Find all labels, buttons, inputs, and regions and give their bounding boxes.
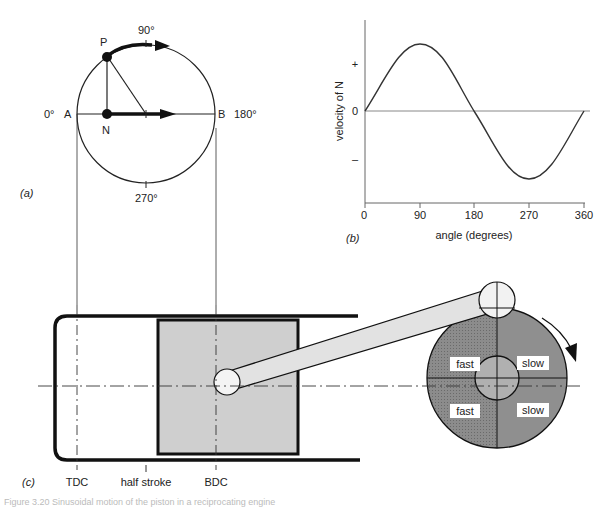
rotation-arrow-head-icon <box>565 343 577 362</box>
point-n <box>102 109 112 119</box>
label-b: B <box>218 108 225 120</box>
radius-line <box>107 56 146 114</box>
figure-caption: Figure 3.20 Sinusoidal motion of the pis… <box>4 497 275 507</box>
x-tick-0: 0 <box>361 209 367 221</box>
x-axis-title: angle (degrees) <box>435 229 512 241</box>
quadrant-label-top-left: fast <box>456 358 474 370</box>
label-n: N <box>102 124 110 136</box>
quadrant-label-bottom-left: fast <box>456 405 474 417</box>
label-0-deg: 0° <box>44 108 55 120</box>
label-a: A <box>64 108 72 120</box>
quadrant-label-top-right: slow <box>522 357 544 369</box>
x-tick-180: 180 <box>465 209 483 221</box>
rotation-arc <box>107 44 152 56</box>
marker-half-stroke: half stroke <box>121 476 172 488</box>
marker-bdc: BDC <box>204 476 227 488</box>
panel-c-tag: (c) <box>22 476 35 488</box>
marker-tdc: TDC <box>66 476 89 488</box>
quadrant-label-bottom-right: slow <box>522 404 544 416</box>
panel-c-piston-mechanism: fast slow fast slow (c) TDC half stroke … <box>22 282 580 488</box>
y-axis-title: velocity of N <box>333 81 345 141</box>
panel-a-tag: (a) <box>20 187 34 199</box>
crank-disk <box>427 308 567 448</box>
label-p: P <box>100 36 107 48</box>
panel-a-crank-circle: P N A B 0° 180° 90° 270° (a) <box>20 24 257 305</box>
y-tick-plus: + <box>352 58 358 70</box>
label-270-deg: 270° <box>135 192 158 204</box>
gudgeon-pin <box>214 369 240 395</box>
label-90-deg: 90° <box>138 24 155 36</box>
x-tick-270: 270 <box>520 209 538 221</box>
label-180-deg: 180° <box>234 108 257 120</box>
x-tick-90: 90 <box>414 209 426 221</box>
point-p <box>102 52 112 62</box>
y-tick-zero: 0 <box>352 105 358 117</box>
velocity-arrow-head-icon <box>160 109 176 119</box>
panel-b-tag: (b) <box>346 232 360 244</box>
y-tick-minus: – <box>352 153 359 165</box>
x-tick-360: 360 <box>575 209 593 221</box>
rotation-arrow-head-icon <box>155 40 170 51</box>
panel-b-velocity-chart: 0 90 180 270 360 + 0 – angle (degrees) v… <box>333 20 593 244</box>
